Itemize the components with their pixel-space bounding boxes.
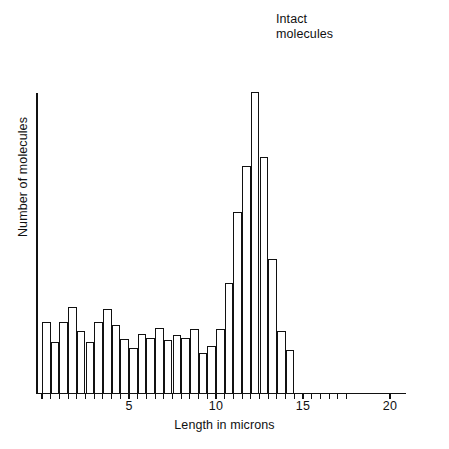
histogram-bar	[138, 334, 147, 392]
histogram-bar	[190, 329, 199, 393]
bar-series	[0, 0, 449, 449]
histogram-bar	[173, 335, 182, 393]
histogram-bar	[94, 322, 103, 393]
histogram-bar	[181, 338, 190, 393]
histogram-bar	[164, 340, 173, 392]
histogram-bar	[103, 309, 112, 392]
histogram-bar	[77, 331, 86, 393]
histogram-bar	[286, 350, 295, 392]
histogram-bar	[277, 331, 286, 392]
histogram-bar	[207, 346, 216, 392]
histogram-bar	[112, 325, 121, 392]
annotation-line-1: Intact	[276, 12, 307, 26]
y-axis-label: Number of molecules	[16, 102, 30, 252]
histogram-bar	[225, 283, 234, 393]
intact-molecules-annotation: Intactmolecules	[276, 12, 333, 42]
histogram-bar	[68, 307, 77, 393]
x-axis-label: Length in microns	[0, 418, 449, 432]
histogram-bar	[260, 157, 269, 392]
histogram-bar	[86, 342, 95, 392]
histogram-bar	[216, 329, 225, 393]
histogram-bar	[251, 92, 260, 393]
histogram-bar	[268, 259, 277, 393]
histogram-bar	[51, 342, 60, 392]
histogram-bar	[233, 212, 242, 393]
histogram-figure: 5101520 Length in microns Number of mole…	[0, 0, 449, 449]
histogram-bar	[120, 339, 129, 393]
histogram-bar	[59, 322, 68, 393]
histogram-bar	[146, 338, 155, 393]
annotation-line-2: molecules	[276, 27, 333, 41]
histogram-bar	[199, 353, 208, 393]
histogram-bar	[42, 322, 51, 393]
histogram-bar	[129, 348, 138, 392]
histogram-bar	[242, 166, 251, 393]
histogram-bar	[155, 328, 164, 393]
